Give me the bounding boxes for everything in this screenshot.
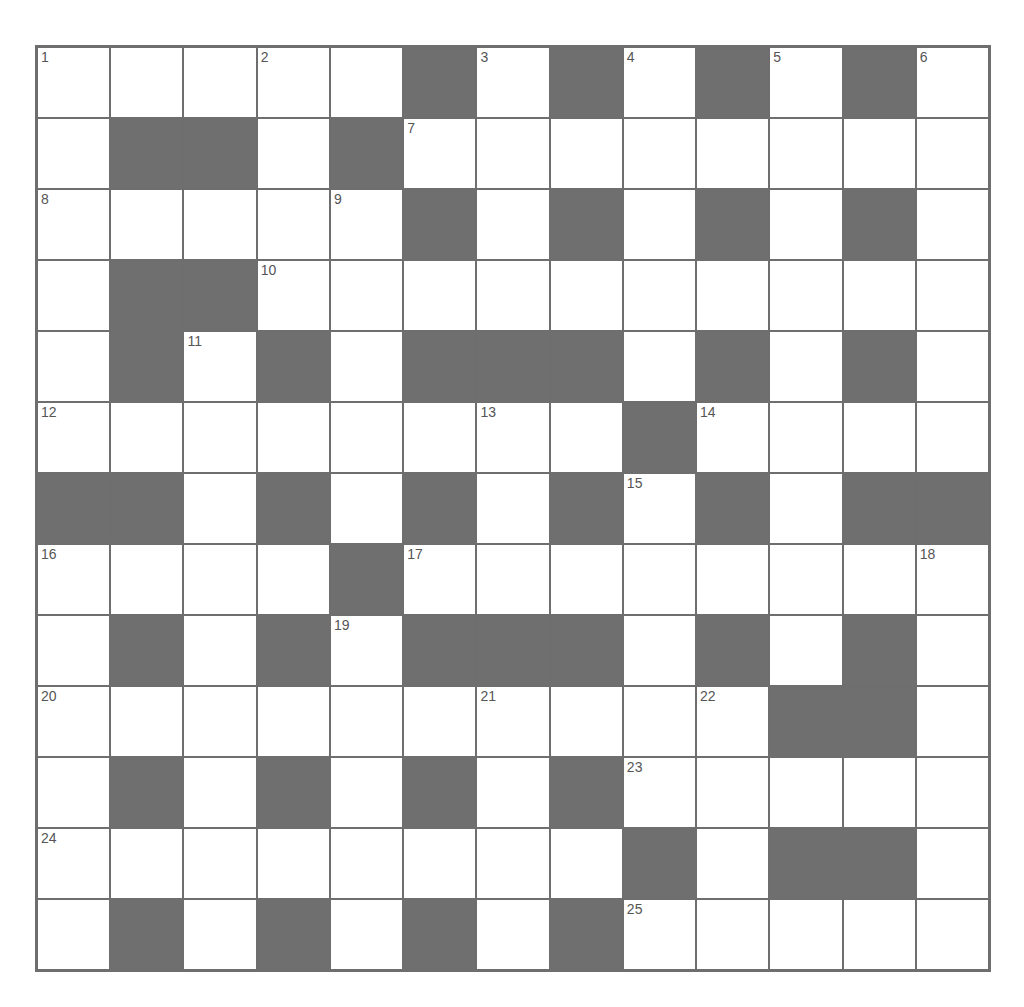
answer-cell[interactable] (917, 758, 988, 827)
answer-cell[interactable] (184, 48, 255, 117)
answer-cell[interactable] (477, 261, 548, 330)
answer-cell[interactable] (551, 545, 622, 614)
answer-cell[interactable] (770, 119, 841, 188)
answer-cell[interactable]: 11 (184, 332, 255, 401)
answer-cell[interactable]: 9 (331, 190, 402, 259)
answer-cell[interactable] (404, 261, 475, 330)
answer-cell[interactable] (917, 403, 988, 472)
answer-cell[interactable]: 3 (477, 48, 548, 117)
answer-cell[interactable] (477, 474, 548, 543)
answer-cell[interactable]: 23 (624, 758, 695, 827)
answer-cell[interactable] (770, 616, 841, 685)
answer-cell[interactable]: 12 (38, 403, 109, 472)
answer-cell[interactable] (477, 119, 548, 188)
answer-cell[interactable] (404, 829, 475, 898)
answer-cell[interactable] (38, 616, 109, 685)
answer-cell[interactable] (917, 119, 988, 188)
answer-cell[interactable] (477, 758, 548, 827)
answer-cell[interactable] (331, 48, 402, 117)
answer-cell[interactable] (624, 545, 695, 614)
answer-cell[interactable] (917, 190, 988, 259)
answer-cell[interactable] (184, 474, 255, 543)
answer-cell[interactable] (697, 758, 768, 827)
answer-cell[interactable] (477, 900, 548, 969)
answer-cell[interactable]: 22 (697, 687, 768, 756)
answer-cell[interactable] (184, 687, 255, 756)
answer-cell[interactable]: 8 (38, 190, 109, 259)
answer-cell[interactable] (111, 829, 182, 898)
answer-cell[interactable]: 15 (624, 474, 695, 543)
answer-cell[interactable] (258, 190, 329, 259)
answer-cell[interactable] (917, 616, 988, 685)
answer-cell[interactable]: 20 (38, 687, 109, 756)
answer-cell[interactable] (551, 403, 622, 472)
answer-cell[interactable]: 21 (477, 687, 548, 756)
answer-cell[interactable] (331, 687, 402, 756)
answer-cell[interactable]: 24 (38, 829, 109, 898)
answer-cell[interactable] (111, 403, 182, 472)
answer-cell[interactable] (477, 190, 548, 259)
answer-cell[interactable] (258, 829, 329, 898)
answer-cell[interactable] (624, 261, 695, 330)
answer-cell[interactable] (844, 545, 915, 614)
answer-cell[interactable] (184, 545, 255, 614)
answer-cell[interactable] (844, 403, 915, 472)
answer-cell[interactable]: 2 (258, 48, 329, 117)
answer-cell[interactable] (770, 261, 841, 330)
answer-cell[interactable] (770, 545, 841, 614)
answer-cell[interactable] (331, 403, 402, 472)
answer-cell[interactable] (551, 687, 622, 756)
answer-cell[interactable]: 4 (624, 48, 695, 117)
answer-cell[interactable] (624, 687, 695, 756)
answer-cell[interactable]: 18 (917, 545, 988, 614)
answer-cell[interactable] (844, 900, 915, 969)
answer-cell[interactable] (551, 261, 622, 330)
answer-cell[interactable] (111, 48, 182, 117)
answer-cell[interactable] (331, 900, 402, 969)
answer-cell[interactable]: 14 (697, 403, 768, 472)
answer-cell[interactable] (770, 900, 841, 969)
answer-cell[interactable]: 17 (404, 545, 475, 614)
answer-cell[interactable] (111, 687, 182, 756)
answer-cell[interactable]: 16 (38, 545, 109, 614)
answer-cell[interactable] (770, 403, 841, 472)
answer-cell[interactable]: 25 (624, 900, 695, 969)
answer-cell[interactable] (917, 332, 988, 401)
answer-cell[interactable] (38, 332, 109, 401)
answer-cell[interactable] (697, 900, 768, 969)
answer-cell[interactable] (331, 758, 402, 827)
answer-cell[interactable] (917, 829, 988, 898)
answer-cell[interactable] (184, 403, 255, 472)
answer-cell[interactable] (697, 261, 768, 330)
answer-cell[interactable] (624, 119, 695, 188)
answer-cell[interactable] (917, 687, 988, 756)
answer-cell[interactable] (917, 900, 988, 969)
answer-cell[interactable] (917, 261, 988, 330)
answer-cell[interactable] (184, 900, 255, 969)
answer-cell[interactable] (477, 829, 548, 898)
answer-cell[interactable] (258, 119, 329, 188)
answer-cell[interactable] (258, 545, 329, 614)
answer-cell[interactable] (184, 758, 255, 827)
answer-cell[interactable]: 1 (38, 48, 109, 117)
answer-cell[interactable] (111, 190, 182, 259)
answer-cell[interactable] (844, 758, 915, 827)
answer-cell[interactable] (111, 545, 182, 614)
answer-cell[interactable] (184, 616, 255, 685)
answer-cell[interactable]: 19 (331, 616, 402, 685)
answer-cell[interactable] (770, 190, 841, 259)
answer-cell[interactable] (697, 829, 768, 898)
answer-cell[interactable] (404, 403, 475, 472)
answer-cell[interactable] (477, 545, 548, 614)
answer-cell[interactable] (844, 261, 915, 330)
answer-cell[interactable] (551, 829, 622, 898)
answer-cell[interactable]: 10 (258, 261, 329, 330)
answer-cell[interactable] (38, 900, 109, 969)
answer-cell[interactable] (624, 332, 695, 401)
answer-cell[interactable] (331, 332, 402, 401)
answer-cell[interactable] (331, 261, 402, 330)
answer-cell[interactable] (697, 119, 768, 188)
answer-cell[interactable] (770, 332, 841, 401)
answer-cell[interactable] (331, 829, 402, 898)
answer-cell[interactable] (258, 687, 329, 756)
